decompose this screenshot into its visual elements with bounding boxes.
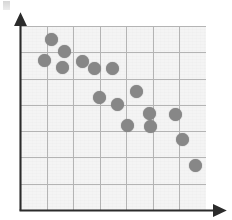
data-point <box>93 91 106 104</box>
gridline-horizontal <box>20 131 206 132</box>
data-point <box>38 54 51 67</box>
data-point <box>58 45 71 58</box>
gridline-horizontal <box>20 157 206 158</box>
gridline-horizontal <box>20 184 206 185</box>
data-point <box>76 55 89 68</box>
data-point <box>56 61 69 74</box>
gridline-vertical <box>100 26 101 210</box>
gridline-vertical <box>73 26 74 210</box>
data-point <box>130 85 143 98</box>
gridline-horizontal <box>20 26 206 27</box>
data-point <box>176 133 189 146</box>
data-point <box>189 159 202 172</box>
plot-area <box>20 26 206 210</box>
gridline-horizontal <box>20 79 206 80</box>
data-point <box>121 119 134 132</box>
scatter-plot-figure <box>0 0 232 220</box>
data-point <box>45 33 58 46</box>
gridline-horizontal <box>20 52 206 53</box>
data-point <box>106 62 119 75</box>
data-point <box>143 107 156 120</box>
scan-artifact-mark <box>3 1 10 10</box>
data-point <box>111 98 124 111</box>
